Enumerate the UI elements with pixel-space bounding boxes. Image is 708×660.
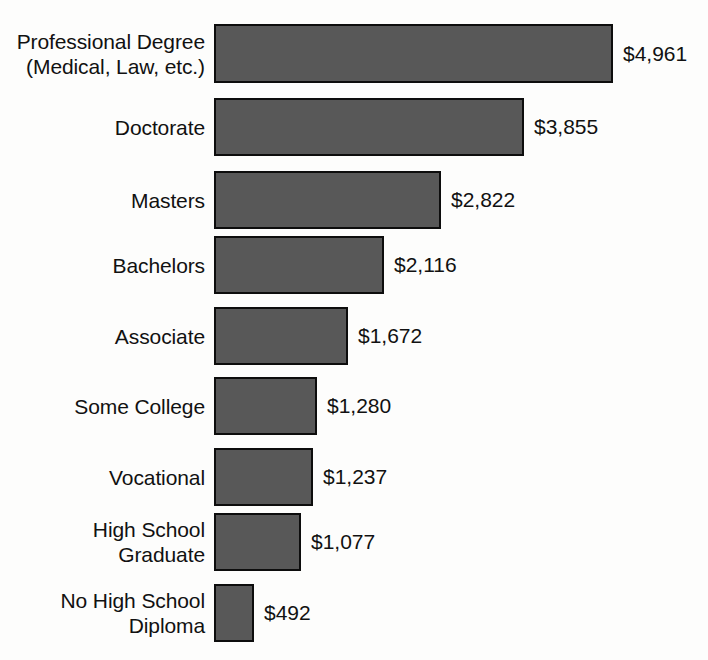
bar-row: Masters$2,822 bbox=[0, 171, 708, 229]
category-label: Professional Degree (Medical, Law, etc.) bbox=[0, 29, 205, 79]
category-label: Vocational bbox=[0, 465, 205, 490]
bar-row: Associate$1,672 bbox=[0, 307, 708, 365]
bar-row: Professional Degree (Medical, Law, etc.)… bbox=[0, 24, 708, 83]
bar-row: High School Graduate$1,077 bbox=[0, 513, 708, 571]
bar bbox=[214, 448, 313, 506]
value-label: $4,961 bbox=[623, 43, 687, 64]
value-label: $1,077 bbox=[311, 531, 375, 552]
bar bbox=[214, 307, 348, 365]
category-label: No High School Diploma bbox=[0, 588, 205, 638]
bar bbox=[214, 98, 524, 156]
bar-chart: Professional Degree (Medical, Law, etc.)… bbox=[0, 0, 708, 660]
bar-row: Some College$1,280 bbox=[0, 377, 708, 435]
value-label: $492 bbox=[264, 602, 311, 623]
category-label: High School Graduate bbox=[0, 517, 205, 567]
value-label: $1,280 bbox=[327, 395, 391, 416]
value-label: $1,237 bbox=[323, 466, 387, 487]
bar-row: Bachelors$2,116 bbox=[0, 236, 708, 294]
bar bbox=[214, 236, 384, 294]
value-label: $3,855 bbox=[534, 116, 598, 137]
bar-row: Vocational$1,237 bbox=[0, 448, 708, 506]
category-label: Some College bbox=[0, 394, 205, 419]
value-label: $2,116 bbox=[394, 254, 457, 275]
bar bbox=[214, 513, 301, 571]
bar bbox=[214, 171, 441, 229]
bar bbox=[214, 584, 254, 642]
bar-row: Doctorate$3,855 bbox=[0, 98, 708, 156]
category-label: Bachelors bbox=[0, 253, 205, 278]
bar bbox=[214, 377, 317, 435]
category-label: Doctorate bbox=[0, 115, 205, 140]
bar bbox=[214, 24, 613, 83]
category-label: Masters bbox=[0, 188, 205, 213]
bar-row: No High School Diploma$492 bbox=[0, 584, 708, 642]
value-label: $2,822 bbox=[451, 189, 515, 210]
category-label: Associate bbox=[0, 324, 205, 349]
value-label: $1,672 bbox=[358, 325, 422, 346]
